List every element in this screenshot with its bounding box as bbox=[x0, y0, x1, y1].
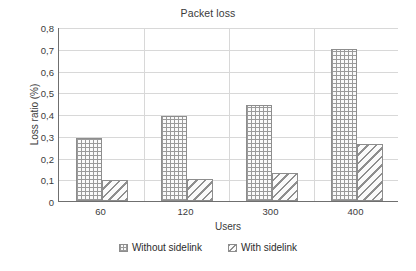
legend-entry[interactable]: With sidelink bbox=[228, 242, 297, 253]
bar-without-sidelink-120 bbox=[161, 116, 187, 201]
y-axis-tick-label: 0,8 bbox=[10, 23, 54, 34]
crosshatch-swatch-icon bbox=[119, 244, 128, 252]
x-axis-tick-label: 60 bbox=[71, 206, 131, 217]
x-axis-tick-label: 120 bbox=[156, 206, 216, 217]
bar-with-sidelink-400 bbox=[357, 144, 383, 201]
bar-with-sidelink-120 bbox=[187, 179, 213, 201]
bar-with-sidelink-60 bbox=[102, 180, 128, 201]
x-axis-label: Users bbox=[58, 221, 398, 232]
y-axis-tick-label: 0 bbox=[10, 197, 54, 208]
bar-without-sidelink-300 bbox=[246, 105, 272, 201]
bar-without-sidelink-400 bbox=[331, 49, 357, 201]
x-gridline bbox=[144, 28, 145, 201]
y-axis-tick-label: 0,3 bbox=[10, 131, 54, 142]
y-axis-tick-label: 0,4 bbox=[10, 110, 54, 121]
y-axis-tick-label: 0,5 bbox=[10, 88, 54, 99]
diagonal-hatch-swatch-icon bbox=[228, 244, 237, 252]
x-gridline bbox=[229, 28, 230, 201]
x-gridline bbox=[314, 28, 315, 201]
legend-label: Without sidelink bbox=[132, 242, 202, 253]
chart-legend: Without sidelinkWith sidelink bbox=[0, 242, 416, 253]
legend-entry[interactable]: Without sidelink bbox=[119, 242, 202, 253]
y-axis-tick-label: 0,1 bbox=[10, 175, 54, 186]
x-axis-tick-label: 300 bbox=[241, 206, 301, 217]
y-axis-tick-label: 0,6 bbox=[10, 66, 54, 77]
y-axis-tick-label: 0,2 bbox=[10, 153, 54, 164]
bar-without-sidelink-60 bbox=[76, 138, 102, 201]
x-axis-tick-label: 400 bbox=[326, 206, 386, 217]
y-axis-tick-label: 0,7 bbox=[10, 44, 54, 55]
legend-label: With sidelink bbox=[241, 242, 297, 253]
bar-with-sidelink-300 bbox=[272, 173, 298, 201]
chart-figure: Packet loss Loss ratio (%) Users Without… bbox=[0, 0, 416, 271]
plot-area bbox=[58, 28, 398, 202]
chart-title: Packet loss bbox=[0, 7, 416, 19]
